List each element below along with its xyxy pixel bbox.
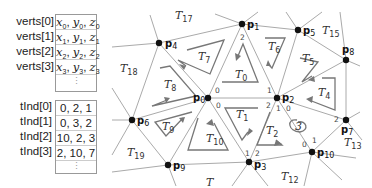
svg-text:2: 2 (255, 149, 260, 158)
svg-text:p1: p1 (247, 19, 259, 32)
svg-text:T13: T13 (344, 136, 362, 151)
point-p0-marker (205, 95, 211, 101)
svg-text:T5: T5 (302, 52, 314, 67)
point-p4-marker (156, 40, 162, 46)
svg-text:p10: p10 (317, 147, 334, 160)
svg-text:1: 1 (312, 136, 317, 145)
svg-text:T18: T18 (120, 62, 138, 77)
svg-text:T19: T19 (127, 146, 145, 161)
triangle-mesh-diagram: T0 T1 T2 3 T4 T5 T6 T7 T8 T9 T10 T12 T13… (0, 0, 372, 188)
point-p8-marker (343, 57, 349, 63)
svg-text:0: 0 (302, 140, 307, 149)
svg-text:0: 0 (216, 101, 221, 110)
point-p2-marker (274, 95, 280, 101)
svg-text:p9: p9 (173, 160, 185, 173)
svg-text:T2: T2 (266, 124, 278, 139)
svg-text:p6: p6 (137, 115, 149, 128)
svg-text:0: 0 (215, 86, 220, 95)
svg-text:T9: T9 (162, 120, 174, 135)
svg-text:T12: T12 (281, 170, 299, 185)
svg-text:1: 1 (276, 104, 281, 113)
svg-text:T4: T4 (318, 86, 330, 101)
svg-text:2: 2 (240, 33, 245, 42)
svg-text:1: 1 (267, 86, 272, 95)
svg-text:T: T (206, 176, 215, 188)
svg-text:p0: p0 (193, 92, 205, 105)
point-p1-marker (239, 21, 245, 27)
svg-text:T10: T10 (206, 132, 224, 147)
point-p10-marker (309, 149, 315, 155)
svg-text:T7: T7 (198, 50, 210, 65)
svg-text:p8: p8 (342, 44, 354, 57)
point-p5-marker (295, 27, 301, 33)
svg-text:1: 1 (245, 149, 250, 158)
svg-text:3: 3 (295, 120, 302, 133)
svg-text:T15: T15 (322, 24, 340, 39)
point-p9-marker (165, 162, 171, 168)
svg-text:0: 0 (286, 104, 291, 113)
svg-text:T17: T17 (175, 9, 193, 24)
svg-text:p4: p4 (165, 38, 177, 51)
point-p6-marker (129, 117, 135, 123)
point-p3-marker (246, 159, 252, 165)
point-p7-marker (343, 117, 349, 123)
svg-text:T1: T1 (236, 108, 248, 123)
svg-text:T8: T8 (164, 78, 176, 93)
svg-text:p5: p5 (303, 25, 315, 38)
svg-text:T0: T0 (235, 68, 247, 83)
svg-text:2: 2 (266, 101, 271, 110)
svg-text:2: 2 (334, 115, 339, 124)
svg-text:T6: T6 (268, 40, 280, 55)
